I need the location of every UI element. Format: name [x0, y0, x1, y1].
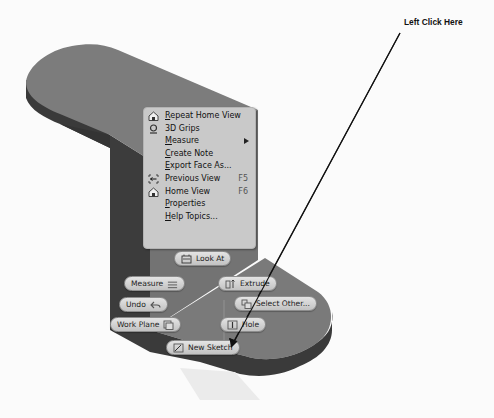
menu-item-repeat-home-view[interactable]: Repeat Home View [144, 110, 255, 123]
measure-button[interactable]: Measure [124, 276, 185, 291]
menu-item-help-topics[interactable]: Help Topics... [144, 211, 255, 224]
undo-button[interactable]: Undo [119, 297, 168, 312]
home-icon [148, 111, 159, 121]
select-other-icon [241, 299, 252, 309]
hole-button[interactable]: Hole [220, 317, 266, 332]
menu-item-previous-view[interactable]: Previous View F5 [144, 173, 255, 186]
look-at-icon [181, 254, 192, 264]
menu-item-3d-grips[interactable]: 3D Grips [144, 123, 255, 136]
submenu-arrow-icon [244, 138, 249, 144]
work-plane-button[interactable]: Work Plane [110, 317, 181, 332]
new-sketch-button[interactable]: New Sketch [166, 340, 240, 355]
menu-item-measure[interactable]: Measure [144, 135, 255, 148]
menu-item-create-note[interactable]: Create Note [144, 148, 255, 161]
shortcut-key: F5 [238, 173, 248, 186]
menu-item-export-face-as[interactable]: Export Face As... [144, 160, 255, 173]
menu-item-properties[interactable]: Properties [144, 198, 255, 211]
previous-view-icon [148, 174, 159, 184]
context-menu: Repeat Home View 3D Grips Measure Create… [143, 107, 256, 249]
extrude-icon [225, 279, 236, 289]
grips-icon [148, 124, 159, 134]
work-plane-icon [163, 320, 174, 330]
extrude-button[interactable]: Extrude [218, 276, 277, 291]
select-other-button[interactable]: Select Other... [234, 296, 317, 311]
hole-icon [227, 320, 238, 330]
annotation-label: Left Click Here [404, 17, 463, 27]
undo-icon [150, 300, 161, 310]
new-sketch-icon [173, 343, 184, 353]
shortcut-key: F6 [238, 186, 248, 199]
home-icon [148, 187, 159, 197]
look-at-button[interactable]: Look At [174, 251, 231, 266]
menu-item-home-view[interactable]: Home View F6 [144, 186, 255, 199]
measure-icon [167, 279, 178, 289]
